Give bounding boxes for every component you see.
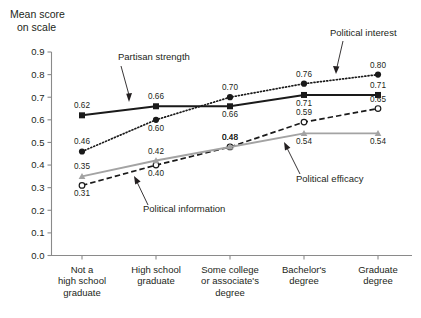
y-axis-tick-label: 0.0 xyxy=(31,250,44,261)
x-axis-category-label: high school xyxy=(58,275,106,286)
y-axis-tick-label: 0.5 xyxy=(31,137,44,148)
y-axis-title-line1: Mean score xyxy=(10,8,65,20)
data-value-label-political-interest: 0.60 xyxy=(148,124,164,133)
x-axis-category-labels: Not ahigh schoolgraduateHigh schoolgradu… xyxy=(58,264,398,298)
data-point-political-interest xyxy=(153,117,159,123)
data-value-label-partisan-strength: 0.71 xyxy=(370,81,386,90)
data-point-political-information xyxy=(375,106,381,112)
data-value-label-political-interest: 0.70 xyxy=(222,83,238,92)
data-value-label-political-interest: 0.76 xyxy=(296,70,312,79)
x-axis-category-label: Bachelor's xyxy=(282,264,326,275)
series-label-political-efficacy: Political efficacy xyxy=(296,173,364,184)
y-axis-tick-label: 0.6 xyxy=(31,114,44,125)
data-value-label-political-information: 0.59 xyxy=(296,108,312,117)
x-axis-ticks xyxy=(82,256,378,260)
annotation-arrow-political-efficacy xyxy=(287,148,300,174)
data-point-partisan-strength xyxy=(227,103,233,109)
x-axis-category-label: Graduate xyxy=(358,264,398,275)
data-point-political-interest xyxy=(227,94,233,100)
series-label-political-interest: Political interest xyxy=(330,27,397,38)
x-axis-category-label: Some college xyxy=(201,264,259,275)
x-axis-category-label: High school xyxy=(131,264,181,275)
data-value-label-political-interest: 0.80 xyxy=(370,61,386,70)
y-axis-ticks xyxy=(48,52,52,256)
data-value-label-political-information: 0.65 xyxy=(370,95,386,104)
line-chart: Mean score on scale 0.00.10.20.30.40.50.… xyxy=(0,0,421,318)
x-axis-category-label: degree xyxy=(289,275,319,286)
chart-container: Mean score on scale 0.00.10.20.30.40.50.… xyxy=(0,0,421,318)
data-value-label-partisan-strength: 0.71 xyxy=(296,99,312,108)
y-axis-tick-label: 0.3 xyxy=(31,182,44,193)
data-value-label-political-efficacy: 0.54 xyxy=(370,137,386,146)
annotation-arrowhead-political-efficacy xyxy=(284,142,290,151)
annotation-arrowhead-political-interest xyxy=(333,66,339,74)
axes: 0.00.10.20.30.40.50.60.70.80.9 xyxy=(31,46,412,261)
series-label-political-information: Political information xyxy=(143,203,225,214)
data-value-label-political-efficacy: 0.54 xyxy=(296,137,312,146)
annotation-arrowhead-political-information xyxy=(134,176,141,184)
data-value-label-political-interest: 0.46 xyxy=(74,137,90,146)
y-axis-tick-label: 0.1 xyxy=(31,227,44,238)
data-value-label-political-efficacy: 0.42 xyxy=(148,147,164,156)
y-axis-tick-label: 0.9 xyxy=(31,46,44,57)
annotation-layer: Partisan strength Political interest Pol… xyxy=(118,27,397,214)
y-axis-title-line2: on scale xyxy=(17,21,56,33)
data-point-partisan-strength xyxy=(301,92,307,98)
y-axis-tick-labels: 0.00.10.20.30.40.50.60.70.80.9 xyxy=(31,46,44,261)
annotation-arrow-political-interest xyxy=(337,41,343,67)
data-value-label-partisan-strength: 0.62 xyxy=(74,101,90,110)
data-point-partisan-strength xyxy=(79,112,85,118)
data-value-label-partisan-strength: 0.66 xyxy=(222,110,238,119)
y-axis-tick-label: 0.7 xyxy=(31,92,44,103)
y-axis-tick-label: 0.4 xyxy=(31,159,44,170)
data-value-label-political-information: 0.40 xyxy=(148,169,164,178)
annotation-arrow-political-information xyxy=(137,182,148,205)
x-axis-category-label: graduate xyxy=(137,275,175,286)
x-axis-category-label: degree xyxy=(215,287,245,298)
series-label-partisan-strength: Partisan strength xyxy=(118,51,190,62)
data-point-political-information xyxy=(79,183,85,189)
x-axis-category-label: Not a xyxy=(71,264,94,275)
data-point-political-interest xyxy=(375,72,381,78)
y-axis-tick-label: 0.2 xyxy=(31,205,44,216)
data-point-partisan-strength xyxy=(153,103,159,109)
data-value-label-partisan-strength: 0.66 xyxy=(148,92,164,101)
data-point-political-interest xyxy=(301,81,307,87)
annotation-arrow-partisan-strength xyxy=(121,66,129,95)
x-axis-category-label: degree xyxy=(363,275,393,286)
data-point-political-information xyxy=(301,119,307,125)
data-point-political-interest xyxy=(79,148,85,154)
data-value-label-political-efficacy: 0.35 xyxy=(74,162,90,171)
x-axis-category-label: graduate xyxy=(63,287,101,298)
annotation-arrowhead-partisan-strength xyxy=(126,93,132,102)
data-value-label-political-efficacy: 0.48 xyxy=(222,133,238,142)
x-axis-category-label: or associate's xyxy=(201,275,259,286)
data-value-label-political-information: 0.31 xyxy=(74,189,90,198)
y-axis-tick-label: 0.8 xyxy=(31,69,44,80)
